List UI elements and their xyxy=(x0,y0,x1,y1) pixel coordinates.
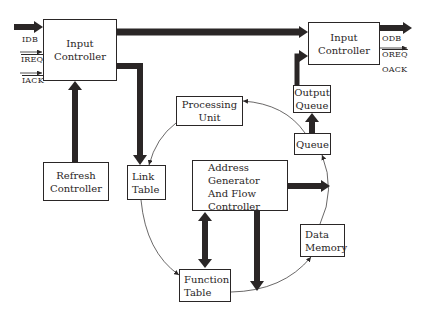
processingunit-to-linktable-curve xyxy=(149,123,176,165)
queue-box: Queue xyxy=(294,133,331,155)
node-label-line: Controller xyxy=(50,182,102,195)
node-label-line: Input xyxy=(330,31,357,44)
odb-label: ODB xyxy=(382,34,401,43)
data-memory-box: Data Memory xyxy=(300,224,345,257)
addrgen-out-arrow xyxy=(288,180,330,192)
node-label-line: Output xyxy=(294,86,330,99)
addrgen-functiontable-bidir-arrow xyxy=(198,212,212,268)
refresh-to-ic-arrow xyxy=(68,81,82,162)
node-label-line: Queue xyxy=(296,138,329,151)
outputqueue-to-ic-arrow xyxy=(297,50,308,85)
ireq-label: IREQ xyxy=(21,55,43,64)
function-table-box: Function Table xyxy=(179,269,231,302)
node-label-line: Link xyxy=(132,170,154,183)
input-controller-right-box: Input Controller xyxy=(308,22,380,65)
node-label-line: Memory xyxy=(305,241,347,254)
node-label-line: Controller xyxy=(318,44,370,57)
node-label-line: Address xyxy=(208,161,249,174)
idb-arrow xyxy=(14,21,43,33)
node-label-line: Controller xyxy=(208,200,260,213)
functiontable-to-datamemory-curve xyxy=(231,257,311,292)
link-table-box: Link Table xyxy=(127,165,166,200)
node-label-line: Controller xyxy=(54,50,106,63)
address-generator-box: Address Generator And Flow Controller xyxy=(192,160,288,211)
node-label-line: And Flow xyxy=(208,187,256,200)
node-label-line: Function xyxy=(184,273,229,286)
idb-label: IDB xyxy=(22,35,38,44)
refresh-controller-box: Refresh Controller xyxy=(43,162,109,201)
oack-label: OACK xyxy=(382,65,407,74)
node-label-line: Input xyxy=(66,37,93,50)
node-label-line: Processing xyxy=(182,98,237,111)
processing-unit-box: Processing Unit xyxy=(176,96,243,126)
ic-to-ic-arrow xyxy=(117,26,308,38)
oreq-label: OREQ xyxy=(382,50,408,59)
node-label-line: Unit xyxy=(198,111,220,124)
node-label-line: Queue xyxy=(296,99,329,112)
iack-label: IACK xyxy=(22,76,44,85)
node-label-line: Data xyxy=(305,228,329,241)
ic-to-linktable-arrow xyxy=(117,66,147,165)
node-label-line: Table xyxy=(132,183,159,196)
queue-to-outputqueue-arrow xyxy=(305,113,319,133)
odb-arrow xyxy=(380,22,412,34)
output-queue-box: Output Queue xyxy=(293,85,331,113)
node-label-line: Refresh xyxy=(56,169,95,182)
input-controller-left-box: Input Controller xyxy=(43,19,117,81)
linktable-to-functiontable-curve xyxy=(141,200,179,275)
addrgen-down-arrow xyxy=(250,211,264,291)
node-label-line: Table xyxy=(184,286,211,299)
node-label-line: Generator xyxy=(208,174,260,187)
